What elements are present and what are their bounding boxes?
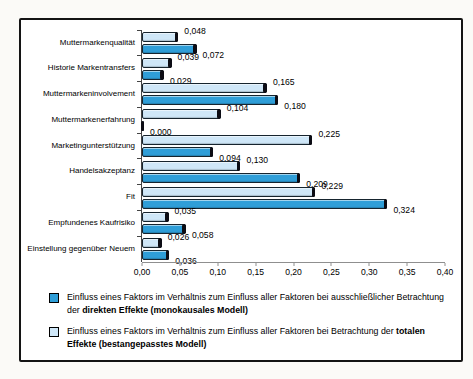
bar-chart: Muttermarkenqualität0,0480,072Historie M… <box>21 20 461 279</box>
chart-row: Handelsakzeptanz0,1300,209 <box>29 159 445 185</box>
x-axis-spacer <box>29 262 141 279</box>
bar-direct-effects <box>142 250 169 260</box>
x-axis-tick-label: 0,05 <box>172 267 189 277</box>
legend-swatch-light-icon <box>49 327 59 337</box>
x-axis-tick <box>293 263 294 266</box>
legend-text-bold: direkten Effekte (monokausales Modell) <box>82 305 248 315</box>
category-label: Marketingunterstützung <box>29 133 141 159</box>
category-bars: 0,2250,094 <box>141 133 445 159</box>
bar-direct-effects <box>142 121 144 131</box>
x-axis-tick-label: 0,30 <box>361 267 378 277</box>
x-axis: 0,000,050,100,150,200,250,300,350,40 <box>142 262 445 279</box>
bar-line: 0,094 <box>142 147 445 158</box>
x-axis-tick-label: 0,20 <box>285 267 302 277</box>
bar-line: 0,036 <box>142 250 445 261</box>
x-axis-tick <box>255 263 256 266</box>
category-label: Muttermarkenerfahrung <box>29 107 141 133</box>
bar-direct-effects <box>142 147 213 157</box>
value-label: 0,035 <box>175 206 197 216</box>
chart-row: Muttermarkenqualität0,0480,072 <box>29 30 445 56</box>
value-label: 0,165 <box>273 77 295 87</box>
legend-item-total-effects: Einfluss eines Faktors im Verhältnis zum… <box>49 325 447 351</box>
legend-label-total-effects: Einfluss eines Faktors im Verhältnis zum… <box>67 325 447 351</box>
x-axis-tick-label: 0,10 <box>209 267 226 277</box>
bar-direct-effects <box>142 173 300 183</box>
category-label: Fit <box>29 185 141 211</box>
value-label: 0,048 <box>184 26 206 36</box>
chart-frame: Muttermarkenqualität0,0480,072Historie M… <box>19 18 463 362</box>
bar-total-effects <box>142 32 178 42</box>
bar-total-effects <box>142 212 169 222</box>
category-label: Muttermarkeninvolvement <box>29 82 141 108</box>
chart-row: Einstellung gegenüber Neuem0,0260,036 <box>29 236 445 262</box>
bar-total-effects <box>142 135 312 145</box>
x-axis-tick-label: 0,00 <box>134 267 151 277</box>
bar-total-effects <box>142 83 267 93</box>
bar-total-effects <box>142 109 221 119</box>
legend-text-normal: Einfluss eines Faktors im Verhältnis zum… <box>67 326 396 336</box>
bar-line: 0,229 <box>142 186 445 197</box>
category-label: Einstellung gegenüber Neuem <box>29 236 141 262</box>
chart-row: Historie Markentransfers0,0390,029 <box>29 56 445 82</box>
bar-direct-effects <box>142 95 278 105</box>
chart-row: Empfundenes Kaufrisiko0,0350,058 <box>29 211 445 237</box>
legend: Einfluss eines Faktors im Verhältnis zum… <box>21 279 461 351</box>
bar-line: 0,130 <box>142 160 445 171</box>
category-label: Muttermarkenqualität <box>29 30 141 56</box>
x-axis-tick <box>331 263 332 266</box>
legend-label-direct-effects: Einfluss eines Faktors im Verhältnis zum… <box>67 291 447 317</box>
bar-total-effects <box>142 238 162 248</box>
x-axis-tick <box>142 263 143 266</box>
value-label: 0,130 <box>246 155 268 165</box>
bar-total-effects <box>142 161 240 171</box>
bar-line: 0,104 <box>142 109 445 120</box>
bar-line: 0,026 <box>142 238 445 249</box>
bar-line: 0,180 <box>142 95 445 106</box>
value-label: 0,225 <box>318 129 340 139</box>
value-label: 0,039 <box>178 52 200 62</box>
bar-line: 0,039 <box>142 57 445 68</box>
category-bars: 0,1650,180 <box>141 82 445 108</box>
bar-line: 0,209 <box>142 172 445 183</box>
x-axis-tick-label: 0,15 <box>247 267 264 277</box>
x-axis-tick <box>179 263 180 266</box>
chart-row: Fit0,2290,324 <box>29 185 445 211</box>
x-axis-tick-label: 0,25 <box>323 267 340 277</box>
bar-total-effects <box>142 58 172 68</box>
x-axis-tick <box>407 263 408 266</box>
bar-line: 0,000 <box>142 121 445 132</box>
bar-line: 0,048 <box>142 31 445 42</box>
category-label: Empfundenes Kaufrisiko <box>29 211 141 237</box>
x-axis-row: 0,000,050,100,150,200,250,300,350,40 <box>29 262 445 279</box>
bar-line: 0,225 <box>142 135 445 146</box>
value-label: 0,026 <box>168 232 190 242</box>
value-label: 0,229 <box>321 181 343 191</box>
x-axis-tick <box>369 263 370 266</box>
bar-line: 0,035 <box>142 212 445 223</box>
x-axis-tick <box>445 263 446 266</box>
category-label: Handelsakzeptanz <box>29 159 141 185</box>
bar-total-effects <box>142 187 315 197</box>
category-bars: 0,1300,209 <box>141 159 445 185</box>
bar-direct-effects <box>142 70 164 80</box>
chart-row: Marketingunterstützung0,2250,094 <box>29 133 445 159</box>
legend-swatch-dark-icon <box>49 293 59 303</box>
bar-line: 0,165 <box>142 83 445 94</box>
x-axis-tick-label: 0,35 <box>399 267 416 277</box>
category-bars: 0,1040,000 <box>141 107 445 133</box>
x-axis-tick-label: 0,40 <box>437 267 454 277</box>
chart-row: Muttermarkenerfahrung0,1040,000 <box>29 107 445 133</box>
category-bars: 0,0260,036 <box>141 236 445 262</box>
chart-rows: Muttermarkenqualität0,0480,072Historie M… <box>29 30 445 262</box>
category-label: Historie Markentransfers <box>29 56 141 82</box>
value-label: 0,104 <box>227 103 249 113</box>
legend-item-direct-effects: Einfluss eines Faktors im Verhältnis zum… <box>49 291 447 317</box>
x-axis-tick <box>217 263 218 266</box>
